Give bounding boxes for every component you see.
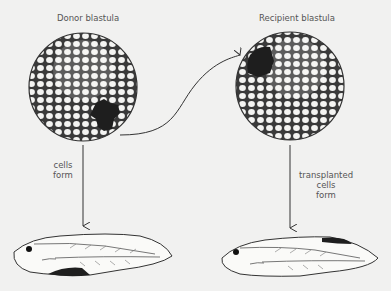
tadpole-left — [14, 234, 172, 276]
recipient-blastula — [236, 32, 344, 140]
left-arrow-caption: cells form — [48, 160, 78, 180]
donor-blastula — [29, 33, 137, 141]
tadpole-right — [222, 237, 378, 276]
transplant-diagram — [0, 0, 391, 291]
recipient-blastula-label: Recipient blastula — [247, 13, 347, 23]
right-arrow-caption: transplanted cells form — [293, 170, 359, 200]
donor-blastula-label: Donor blastula — [48, 13, 128, 23]
transfer-arrow — [120, 55, 240, 135]
